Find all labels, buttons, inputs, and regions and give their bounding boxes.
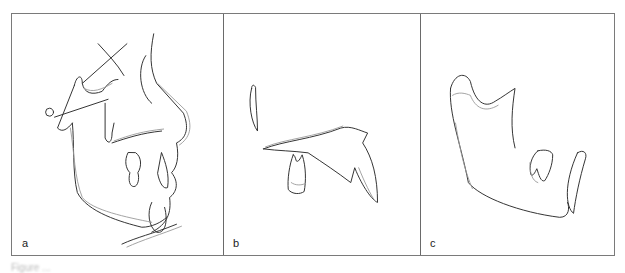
cephalometric-tracing-full xyxy=(12,14,223,255)
figure-frame: a b xyxy=(11,13,615,256)
panel-label-a: a xyxy=(22,237,28,249)
panel-label-c: c xyxy=(430,237,436,249)
panel-c: c xyxy=(420,14,614,255)
maxilla-superimposition-tracing xyxy=(223,14,420,255)
panel-a: a xyxy=(12,14,224,255)
panel-label-b: b xyxy=(233,237,239,249)
figure-caption: Figure ... xyxy=(11,262,50,273)
mandible-superimposition-tracing xyxy=(420,14,614,255)
panel-b: b xyxy=(223,14,421,255)
